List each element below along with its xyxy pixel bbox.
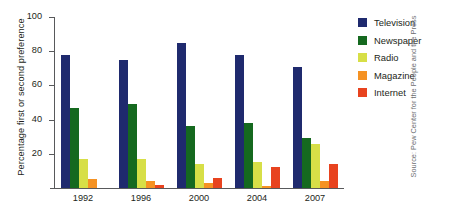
bar bbox=[320, 181, 329, 188]
x-axis-line bbox=[50, 188, 344, 189]
bar bbox=[195, 164, 204, 188]
bar bbox=[244, 123, 253, 188]
bar-group-bars bbox=[119, 17, 164, 188]
y-axis-title: Percentage first or second preference bbox=[16, 2, 26, 192]
bar-group-bars bbox=[61, 17, 106, 188]
bar bbox=[137, 159, 146, 188]
bar-group: 2000 bbox=[170, 17, 228, 188]
bar-group: 2004 bbox=[228, 17, 286, 188]
x-axis-tick-label: 1992 bbox=[54, 193, 112, 203]
bar bbox=[128, 104, 137, 188]
bar bbox=[329, 164, 338, 188]
plot-area: 20406080100 19921996200020042007 bbox=[54, 17, 344, 188]
bar bbox=[177, 43, 186, 188]
x-axis-tick-label: 1996 bbox=[112, 193, 170, 203]
bar bbox=[253, 162, 262, 188]
bar bbox=[70, 108, 79, 188]
bar bbox=[262, 186, 271, 188]
y-axis-tick-label: 80 bbox=[32, 45, 42, 55]
bar bbox=[213, 178, 222, 188]
bar-group: 2007 bbox=[286, 17, 344, 188]
y-axis-tick-label: 20 bbox=[32, 148, 42, 158]
legend-swatch-icon bbox=[358, 18, 367, 27]
bar bbox=[88, 179, 97, 188]
y-axis-tick-label: 60 bbox=[32, 79, 42, 89]
bar bbox=[155, 185, 164, 188]
bar bbox=[61, 55, 70, 188]
legend-swatch-icon bbox=[358, 36, 367, 45]
bar-group-bars bbox=[235, 17, 280, 188]
legend-swatch-icon bbox=[358, 88, 367, 97]
legend-swatch-icon bbox=[358, 53, 367, 62]
y-axis-tick-label: 100 bbox=[27, 11, 42, 21]
x-axis-tick-label: 2004 bbox=[228, 193, 286, 203]
x-axis-tick-label: 2000 bbox=[170, 193, 228, 203]
bar-group-bars bbox=[177, 17, 222, 188]
bar bbox=[186, 126, 195, 188]
bar-chart: Percentage first or second preference 20… bbox=[0, 0, 450, 224]
legend-item-label: Internet bbox=[374, 87, 406, 98]
y-axis-tick-label: 40 bbox=[32, 114, 42, 124]
bar bbox=[235, 55, 244, 188]
bar-group: 1992 bbox=[54, 17, 112, 188]
bar-group: 1996 bbox=[112, 17, 170, 188]
bar bbox=[146, 181, 155, 188]
bar-group-bars bbox=[293, 17, 338, 188]
x-axis-tick-label: 2007 bbox=[286, 193, 344, 203]
bar bbox=[79, 159, 88, 188]
source-note: Source: Pew Center for the People and th… bbox=[409, 0, 418, 197]
bar bbox=[204, 183, 213, 188]
bar bbox=[119, 60, 128, 188]
bar bbox=[271, 167, 280, 188]
bar bbox=[302, 138, 311, 188]
legend-item-label: Radio bbox=[374, 52, 399, 63]
bar bbox=[293, 67, 302, 188]
bar bbox=[311, 144, 320, 188]
legend-swatch-icon bbox=[358, 71, 367, 80]
